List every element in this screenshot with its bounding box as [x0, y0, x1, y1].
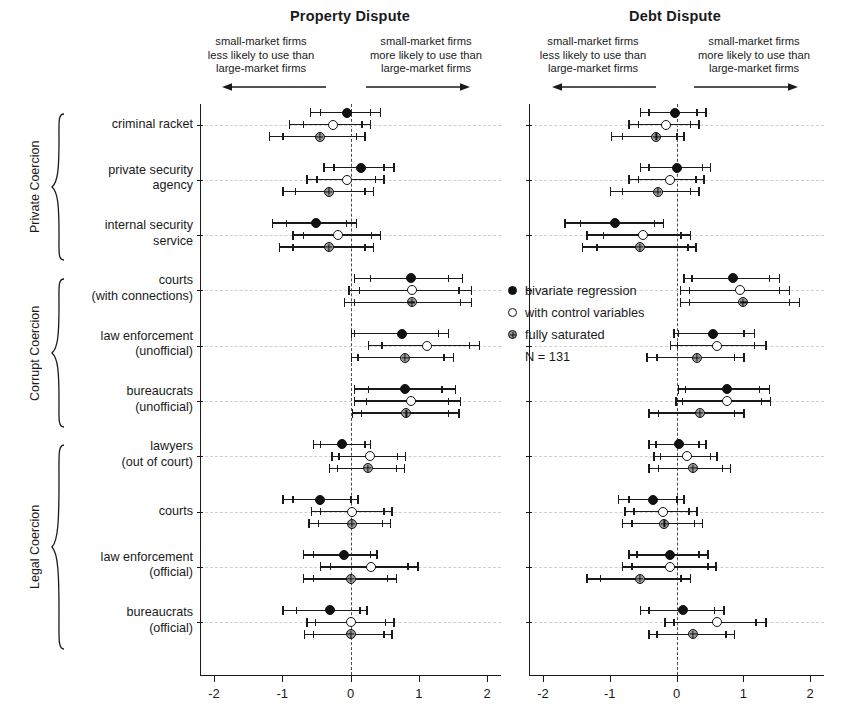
estimate-marker-filled-circle[interactable]: [708, 329, 718, 339]
estimate-marker-filled-circle[interactable]: [722, 384, 732, 394]
estimate-marker-open-circle[interactable]: [365, 451, 375, 461]
ci-outer-cap: [282, 606, 283, 615]
estimate-marker-filled-circle[interactable]: [672, 163, 682, 173]
estimate-marker-saturated-circle[interactable]: [315, 132, 325, 142]
y-axis-line: [529, 104, 530, 675]
estimate-marker-saturated-circle[interactable]: [347, 519, 357, 529]
estimate-marker-filled-circle[interactable]: [728, 273, 738, 283]
estimate-marker-saturated-circle[interactable]: [324, 187, 334, 197]
ci-outer-cap: [789, 286, 790, 295]
ci-outer-cap: [405, 452, 406, 461]
ci-outer-cap: [705, 440, 706, 449]
estimate-marker-saturated-circle[interactable]: [635, 574, 645, 584]
estimate-marker-saturated-circle[interactable]: [346, 629, 356, 639]
ci-inner-cap: [694, 520, 695, 527]
estimate-marker-open-circle[interactable]: [712, 617, 722, 627]
estimate-marker-filled-circle[interactable]: [670, 108, 680, 118]
ci-inner-cap: [689, 299, 690, 306]
estimate-marker-open-circle[interactable]: [342, 175, 352, 185]
estimate-marker-filled-circle[interactable]: [397, 329, 407, 339]
ci-outer-cap: [765, 341, 766, 350]
ci-inner-cap: [318, 520, 319, 527]
panel-title-debt: Debt Dispute: [530, 8, 820, 24]
estimate-marker-saturated-circle[interactable]: [659, 519, 669, 529]
estimate-marker-open-circle[interactable]: [658, 507, 668, 517]
estimate-marker-open-circle[interactable]: [366, 562, 376, 572]
estimate-marker-filled-circle[interactable]: [337, 439, 347, 449]
estimate-marker-open-circle[interactable]: [638, 230, 648, 240]
ci-inner-cap: [725, 631, 726, 638]
estimate-marker-open-circle[interactable]: [328, 120, 338, 130]
estimate-marker-saturated-circle[interactable]: [407, 297, 417, 307]
estimate-marker-saturated-circle[interactable]: [692, 353, 702, 363]
estimate-marker-saturated-circle[interactable]: [363, 463, 373, 473]
ci-outer-cap: [391, 507, 392, 516]
estimate-marker-open-circle[interactable]: [346, 617, 356, 627]
ci-outer-cap: [352, 409, 353, 418]
estimate-marker-filled-circle[interactable]: [648, 495, 658, 505]
ci-inner-cap: [370, 551, 371, 558]
estimate-marker-open-circle[interactable]: [406, 396, 416, 406]
estimate-marker-saturated-circle[interactable]: [400, 353, 410, 363]
estimate-marker-filled-circle[interactable]: [400, 384, 410, 394]
estimate-marker-saturated-circle[interactable]: [695, 408, 705, 418]
ci-inner-cap: [622, 133, 623, 140]
ci-inner-cap: [654, 220, 655, 227]
estimate-marker-open-circle[interactable]: [333, 230, 343, 240]
estimate-marker-open-circle[interactable]: [661, 120, 671, 130]
estimate-marker-filled-circle[interactable]: [315, 495, 325, 505]
row-label: bureaucrats (official): [78, 605, 193, 636]
estimate-marker-filled-circle[interactable]: [339, 550, 349, 560]
estimate-marker-filled-circle[interactable]: [325, 605, 335, 615]
estimate-marker-filled-circle[interactable]: [678, 605, 688, 615]
estimate-marker-filled-circle[interactable]: [406, 273, 416, 283]
ci-outer-cap: [683, 274, 684, 283]
estimate-marker-saturated-circle[interactable]: [688, 463, 698, 473]
estimate-marker-filled-circle[interactable]: [342, 108, 352, 118]
ci-inner-cap: [691, 275, 692, 282]
estimate-marker-filled-circle[interactable]: [356, 163, 366, 173]
ci-inner-cap: [656, 354, 657, 361]
estimate-marker-filled-circle[interactable]: [665, 550, 675, 560]
estimate-marker-open-circle[interactable]: [665, 175, 675, 185]
estimate-marker-saturated-circle[interactable]: [346, 574, 356, 584]
estimate-marker-open-circle[interactable]: [735, 285, 745, 295]
ci-outer-cap: [373, 187, 374, 196]
estimate-marker-open-circle[interactable]: [407, 285, 417, 295]
ci-inner-cap: [315, 619, 316, 626]
ci-outer-cap: [354, 274, 355, 283]
ci-inner-cap: [638, 121, 639, 128]
estimate-marker-open-circle[interactable]: [722, 396, 732, 406]
estimate-marker-saturated-circle[interactable]: [635, 242, 645, 252]
estimate-marker-filled-circle[interactable]: [311, 218, 321, 228]
estimate-marker-saturated-circle[interactable]: [651, 132, 661, 142]
ci-inner-cap: [397, 453, 398, 460]
ci-inner-cap: [438, 330, 439, 337]
estimate-marker-open-circle[interactable]: [422, 341, 432, 351]
estimate-marker-open-circle[interactable]: [665, 562, 675, 572]
estimate-marker-filled-circle[interactable]: [610, 218, 620, 228]
x-axis-tick-label: 1: [404, 686, 434, 701]
y-axis-tick: [526, 622, 532, 623]
ci-outer-cap: [306, 175, 307, 184]
estimate-marker-saturated-circle[interactable]: [324, 242, 334, 252]
ci-inner-cap: [648, 607, 649, 614]
estimate-marker-saturated-circle[interactable]: [738, 297, 748, 307]
ci-inner-cap: [286, 220, 287, 227]
estimate-marker-saturated-circle[interactable]: [688, 629, 698, 639]
ci-outer-cap: [715, 562, 716, 571]
estimate-marker-saturated-circle[interactable]: [401, 408, 411, 418]
x-axis-tick-label: -2: [199, 686, 229, 701]
estimate-marker-open-circle[interactable]: [712, 341, 722, 351]
estimate-marker-filled-circle[interactable]: [674, 439, 684, 449]
ci-inner-cap: [383, 508, 384, 515]
estimate-marker-open-circle[interactable]: [682, 451, 692, 461]
ci-outer-cap: [272, 219, 273, 228]
ci-inner-cap: [357, 354, 358, 361]
ci-inner-cap: [734, 410, 735, 417]
estimate-marker-open-circle[interactable]: [347, 507, 357, 517]
ci-inner-cap: [387, 575, 388, 582]
ci-inner-cap: [636, 551, 637, 558]
estimate-marker-saturated-circle[interactable]: [653, 187, 663, 197]
ci-outer-cap: [390, 519, 391, 528]
